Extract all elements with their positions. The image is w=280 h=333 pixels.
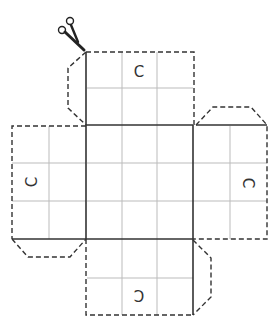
label-top: C xyxy=(134,63,144,81)
cut-lines xyxy=(12,52,267,315)
scissors-icon xyxy=(59,18,85,51)
label-right: C xyxy=(239,178,257,188)
grid-lines xyxy=(12,52,267,315)
fold-lines xyxy=(12,52,267,315)
label-bottom: C xyxy=(134,288,144,306)
box-net-diagram: C C C C xyxy=(0,0,280,333)
label-left: C xyxy=(23,177,41,187)
